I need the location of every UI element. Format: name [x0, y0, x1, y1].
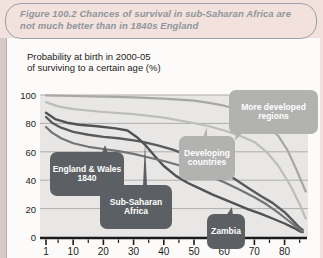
callout-more-developed-regions: More developed regions	[229, 90, 318, 134]
page-background: { "figure": { "title": "Figure 100.2 Cha…	[0, 0, 323, 258]
callout-developing-countries: Developing countries	[179, 136, 235, 180]
y-tick-label-20: 20	[6, 204, 36, 215]
callout-zambia: Zambia	[207, 214, 245, 249]
y-tick-label-0: 0	[6, 232, 36, 243]
x-tick-label-80: 80	[279, 246, 291, 257]
y-tick-label-100: 100	[6, 90, 36, 101]
x-tick-label-50: 50	[188, 246, 200, 257]
y-tick-label-80: 80	[6, 118, 36, 129]
x-tick-label-10: 10	[68, 246, 80, 257]
callout-pointer	[203, 127, 208, 137]
x-tick-label-40: 40	[158, 246, 170, 257]
callout-england-wales-1840-label: England & Wales 1840	[53, 164, 122, 184]
callout-developing-countries-label: Developing countries	[184, 148, 230, 168]
x-tick-label-30: 30	[128, 246, 140, 257]
callout-zambia-label: Zambia	[211, 226, 241, 236]
callout-pointer	[143, 143, 147, 186]
x-tick-label-1: 1	[43, 246, 49, 257]
callout-pointer	[227, 206, 235, 215]
callout-sub-saharan-africa-label: Sub-Saharan Africa	[110, 197, 162, 217]
y-tick-label-60: 60	[6, 147, 36, 158]
x-tick-label-20: 20	[98, 246, 110, 257]
x-tick-label-70: 70	[249, 246, 261, 257]
callout-sub-saharan-africa: Sub-Saharan Africa	[100, 185, 172, 229]
y-tick-label-40: 40	[6, 175, 36, 186]
callout-more-developed-regions-label: More developed regions	[241, 102, 306, 122]
callout-pointer	[102, 145, 108, 153]
